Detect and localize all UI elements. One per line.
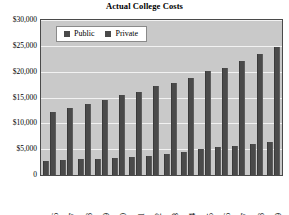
bar-group <box>112 20 125 175</box>
bar-private <box>188 78 194 175</box>
bar-group <box>78 20 91 175</box>
y-tick-label: $10,000 <box>0 119 37 127</box>
x-tick-label: '05–'06 <box>224 213 232 215</box>
y-tick-label: $25,000 <box>0 42 37 50</box>
x-tick-label: '04–'05 <box>207 213 215 215</box>
bar-group <box>267 20 280 175</box>
bar-group <box>129 20 142 175</box>
legend-swatch-public-icon <box>64 31 70 37</box>
chart-legend: Public Private <box>56 26 147 42</box>
bar-private <box>50 112 56 175</box>
x-tick-label: '06–'07 <box>241 213 249 215</box>
bar-public <box>267 142 273 175</box>
bar-public <box>146 156 152 175</box>
x-tick-label: '95–'96 <box>52 213 60 215</box>
x-tick-label: '00–'01 <box>138 213 146 215</box>
bar-private <box>274 47 280 175</box>
bar-group <box>164 20 177 175</box>
x-tick-label: '02–'03 <box>172 213 180 215</box>
plot-area: Public Private <box>40 19 283 176</box>
bars-layer <box>41 20 282 175</box>
bar-public <box>198 149 204 175</box>
legend-item-public[interactable]: Public <box>64 29 94 39</box>
bar-group <box>181 20 194 175</box>
bar-private <box>239 61 245 175</box>
x-tick-label: '07–'08 <box>258 213 266 215</box>
x-tick-label: '03–'04 <box>189 213 197 215</box>
bar-public <box>95 159 101 175</box>
bar-public <box>250 144 256 175</box>
x-tick-label: '01–'02 <box>155 213 163 215</box>
bar-private <box>85 104 91 175</box>
bar-public <box>232 146 238 175</box>
y-tick-label: $15,000 <box>0 94 37 102</box>
x-tick-label: '97–'98 <box>86 213 94 215</box>
legend-label-private: Private <box>115 29 138 39</box>
bar-group <box>95 20 108 175</box>
x-tick-label: '96–'97 <box>69 213 77 215</box>
bar-group <box>146 20 159 175</box>
bar-group <box>250 20 263 175</box>
bar-group <box>215 20 228 175</box>
x-tick-label: '08–'09 <box>275 213 283 215</box>
bar-private <box>222 68 228 175</box>
x-tick-label: '98–'99 <box>103 213 111 215</box>
bar-public <box>78 159 84 175</box>
bar-private <box>171 83 177 175</box>
bar-private <box>119 95 125 175</box>
bar-private <box>102 100 108 175</box>
y-tick-label: 0 <box>0 171 37 179</box>
bar-private <box>257 54 263 175</box>
legend-swatch-private-icon <box>105 31 111 37</box>
bar-public <box>43 161 49 175</box>
x-axis: '95–'96'96–'97'97–'98'98–'99'99–'00'00–'… <box>40 176 283 215</box>
y-axis: $30,000$25,000$20,000$15,000$10,000$5,00… <box>0 19 37 176</box>
chart-figure: Actual College Costs $30,000$25,000$20,0… <box>0 0 289 215</box>
bar-public <box>129 157 135 175</box>
bar-private <box>205 71 211 175</box>
bar-public <box>215 147 221 175</box>
bar-public <box>60 160 66 175</box>
x-tick-label: '99–'00 <box>120 213 128 215</box>
chart-title: Actual College Costs <box>0 1 289 12</box>
bar-group <box>43 20 56 175</box>
bar-group <box>198 20 211 175</box>
legend-item-private[interactable]: Private <box>105 29 138 39</box>
bar-group <box>60 20 73 175</box>
bar-public <box>112 158 118 175</box>
bar-public <box>164 154 170 175</box>
bar-private <box>153 86 159 175</box>
y-tick-label: $20,000 <box>0 68 37 76</box>
y-tick-label: $30,000 <box>0 16 37 24</box>
bar-private <box>67 108 73 175</box>
bar-group <box>232 20 245 175</box>
legend-label-public: Public <box>74 29 94 39</box>
y-tick-label: $5,000 <box>0 145 37 153</box>
bar-private <box>136 92 142 175</box>
bar-public <box>181 152 187 175</box>
